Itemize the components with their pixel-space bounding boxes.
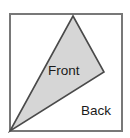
front-back-diagram-svg: Front Back	[0, 0, 130, 138]
figure-container: Front Back	[0, 0, 130, 138]
front-label: Front	[48, 63, 80, 78]
back-label: Back	[81, 103, 111, 118]
